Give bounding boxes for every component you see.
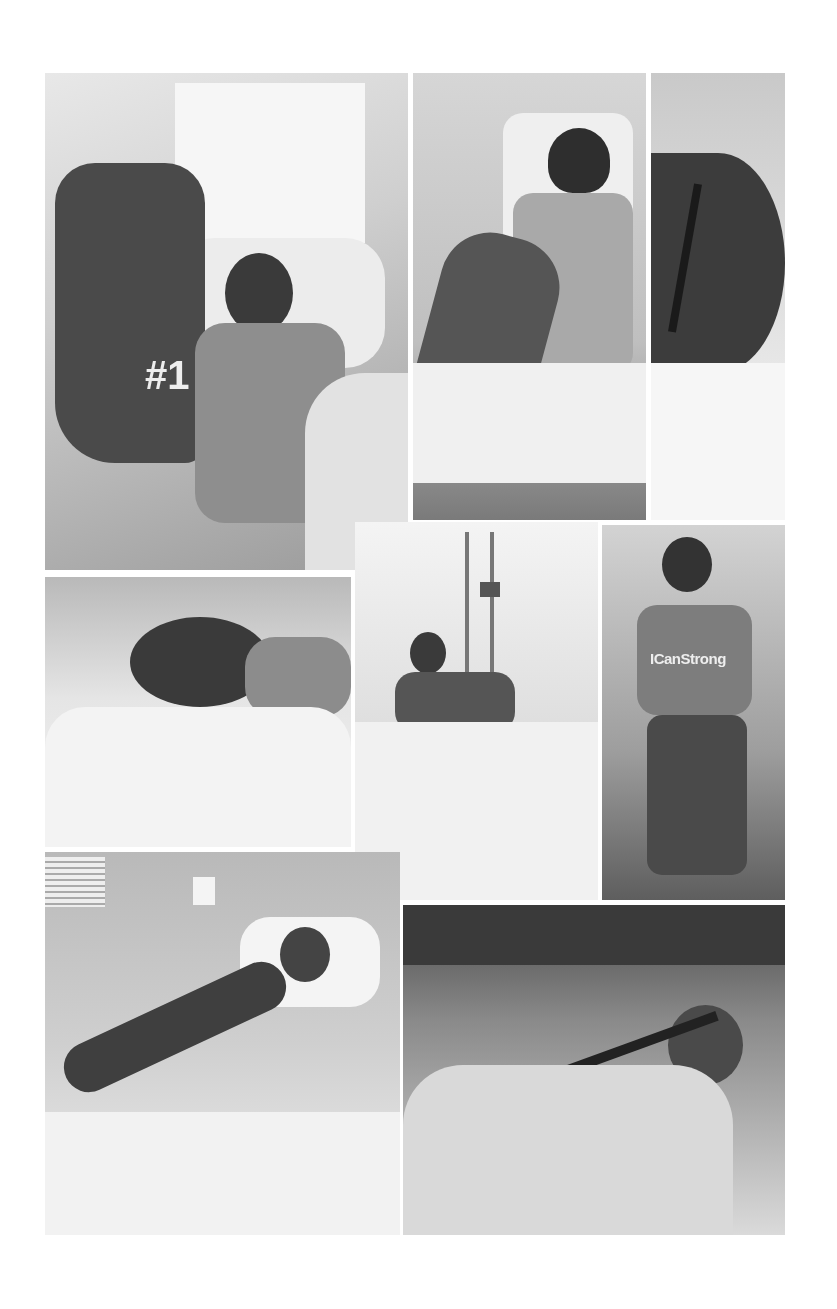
window-blinds (45, 857, 105, 907)
arm (245, 637, 351, 717)
patient-head (410, 632, 446, 674)
bed-sheet (413, 363, 646, 483)
foam-finger (55, 163, 205, 463)
patient-head (225, 253, 293, 333)
foam-finger-text: #1 (145, 353, 190, 398)
monitor (480, 582, 500, 597)
photo-wheelchair: ICanStrong (602, 525, 785, 900)
bed-sheet (45, 1112, 400, 1235)
photo-lift-sling (403, 905, 785, 1235)
blanket (45, 707, 351, 847)
iv-pole (465, 532, 469, 672)
gown (403, 1065, 733, 1235)
helmet (548, 128, 610, 193)
head (651, 153, 785, 373)
iv-pole (490, 532, 494, 672)
photo-lying-face (45, 577, 351, 847)
photo-bed-bandage (45, 852, 400, 1235)
photo-head-scar (651, 73, 785, 520)
iv-pump (193, 877, 215, 905)
photo-foam-finger: #1 (45, 73, 408, 570)
legs (56, 954, 295, 1101)
legs (647, 715, 747, 875)
patient-head (280, 927, 330, 982)
shirt-text: ICanStrong (650, 650, 726, 667)
window (403, 905, 785, 965)
photo-bed-iv (355, 522, 598, 900)
helmet (662, 537, 712, 592)
pillow (651, 363, 785, 520)
photo-helmet-sitting (413, 73, 646, 520)
